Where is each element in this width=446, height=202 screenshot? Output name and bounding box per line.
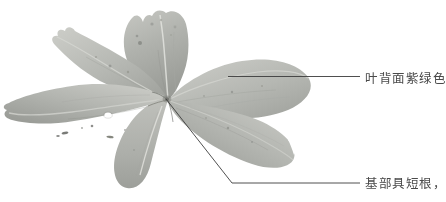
leader-line-layer [0, 0, 446, 202]
annotation-label-upper: 叶背面紫绿色 [365, 68, 446, 87]
leader-line-lower [166, 99, 360, 183]
specimen-figure: 叶背面紫绿色 基部具短根， [0, 0, 446, 202]
annotation-label-lower: 基部具短根， [365, 173, 446, 192]
